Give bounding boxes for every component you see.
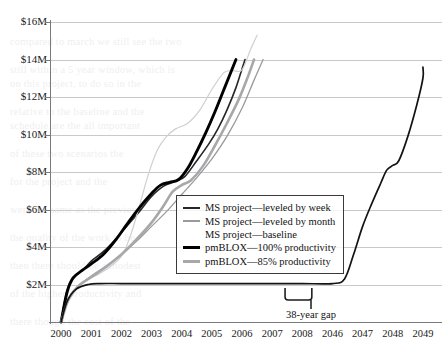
legend-item-label: MS project—leveled by month	[205, 216, 335, 227]
legend-item-label: MS project—baseline	[205, 229, 297, 240]
legend-swatch-line	[183, 234, 200, 235]
legend-item-label: pmBLOX—100% productivity	[205, 242, 336, 253]
chart-legend: MS project—leveled by weekMS project—lev…	[176, 195, 344, 274]
legend-item-label: pmBLOX—85% productivity	[205, 256, 331, 267]
legend-item: MS project—leveled by month	[183, 214, 337, 227]
data-series-layer	[0, 0, 448, 361]
legend-item: MS project—baseline	[183, 228, 337, 241]
chart-container: $16M$14M$12M$10M$8M$6M$4M$2M 20002001200…	[0, 0, 448, 361]
legend-swatch-line	[183, 260, 200, 263]
legend-swatch-line	[183, 246, 200, 249]
legend-item: pmBLOX—85% productivity	[183, 255, 337, 268]
legend-swatch-line	[183, 220, 200, 221]
series-line	[61, 60, 263, 323]
legend-item: MS project—leveled by week	[183, 201, 337, 214]
gap-annotation-label: 38-year gap	[286, 309, 336, 321]
series-line	[61, 60, 236, 323]
legend-swatch-line	[183, 207, 200, 209]
legend-item: pmBLOX—100% productivity	[183, 241, 337, 254]
legend-item-label: MS project—leveled by week	[205, 202, 331, 213]
